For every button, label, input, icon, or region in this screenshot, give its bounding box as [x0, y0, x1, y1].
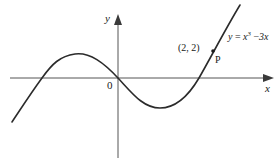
y-axis-arrowhead: [114, 14, 122, 25]
point-p-label: P: [215, 55, 221, 65]
point-coordinates-label: (2, 2): [178, 43, 200, 53]
x-axis-label: x: [265, 83, 270, 94]
curve-equation-label: y = x3 −3x: [228, 32, 269, 42]
point-p-marker: [211, 49, 215, 53]
cubic-curve: [12, 5, 240, 122]
origin-label: 0: [107, 80, 113, 91]
cubic-graph-plot: [0, 0, 280, 160]
y-axis-label: y: [105, 13, 110, 24]
x-axis-arrowhead: [263, 74, 274, 82]
graph-figure: y x 0 (2, 2) P y = x3 −3x: [0, 0, 280, 160]
equation-linear-term: 3x: [259, 31, 268, 42]
